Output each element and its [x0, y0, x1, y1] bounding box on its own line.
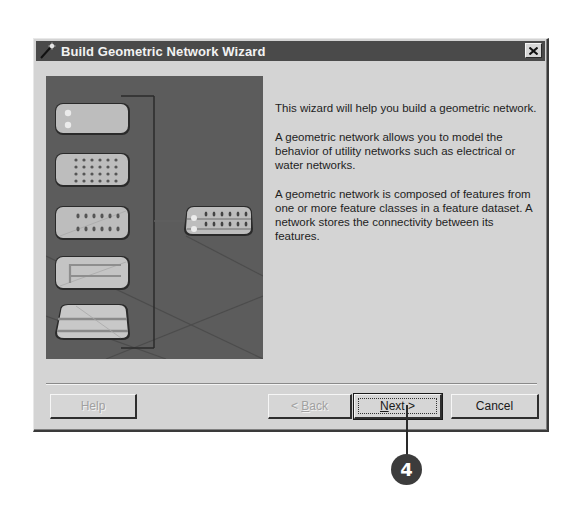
composition-paragraph: A geometric network is composed of featu…	[275, 187, 540, 243]
wizard-wand-icon	[39, 42, 57, 60]
step-callout-badge: 4	[391, 454, 422, 485]
back-button-label: < Back	[291, 399, 328, 413]
help-button-label: Help	[81, 399, 106, 413]
cancel-button[interactable]: Cancel	[451, 394, 539, 419]
feature-class-points-rows-icon	[55, 206, 130, 240]
close-button[interactable]	[525, 43, 542, 58]
page: Build Geometric Network Wizard	[0, 0, 577, 516]
feature-class-lines-icon	[55, 256, 130, 290]
next-button-label: Next >	[380, 399, 415, 413]
network-combined-icon	[184, 206, 253, 236]
button-separator	[46, 383, 537, 385]
feature-class-junctions-icon	[55, 103, 130, 135]
next-button[interactable]: Next >	[354, 394, 442, 419]
intro-paragraph: This wizard will help you build a geomet…	[275, 101, 540, 115]
help-button[interactable]: Help	[50, 394, 137, 419]
feature-class-dense-points-icon	[55, 153, 130, 187]
callout-leader-line	[406, 405, 408, 455]
cancel-button-label: Cancel	[476, 399, 513, 413]
definition-paragraph: A geometric network allows you to model …	[275, 130, 540, 172]
dialog-title: Build Geometric Network Wizard	[61, 44, 265, 59]
feature-class-bands-icon	[55, 304, 130, 340]
wizard-description: This wizard will help you build a geomet…	[275, 101, 540, 258]
network-illustration	[46, 76, 263, 359]
back-button[interactable]: < Back	[268, 394, 352, 419]
title-bar[interactable]: Build Geometric Network Wizard	[36, 41, 545, 61]
close-icon	[529, 47, 538, 55]
wizard-dialog: Build Geometric Network Wizard	[33, 38, 549, 432]
